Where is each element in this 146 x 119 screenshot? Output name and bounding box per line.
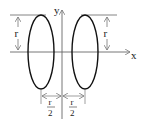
svg-text:2: 2: [70, 108, 75, 118]
x-axis-label: x: [131, 49, 137, 61]
right-offset-label: r 2: [69, 97, 77, 118]
svg-text:r: r: [49, 97, 52, 107]
left-offset-label: r 2: [47, 97, 55, 118]
svg-text:r: r: [71, 97, 74, 107]
left-height-label: r: [15, 27, 19, 39]
y-axis-label: y: [54, 4, 60, 16]
svg-text:2: 2: [48, 108, 53, 118]
right-height-label: r: [104, 27, 108, 39]
ellipses-diagram: x y r r r 2 r 2: [0, 0, 146, 119]
